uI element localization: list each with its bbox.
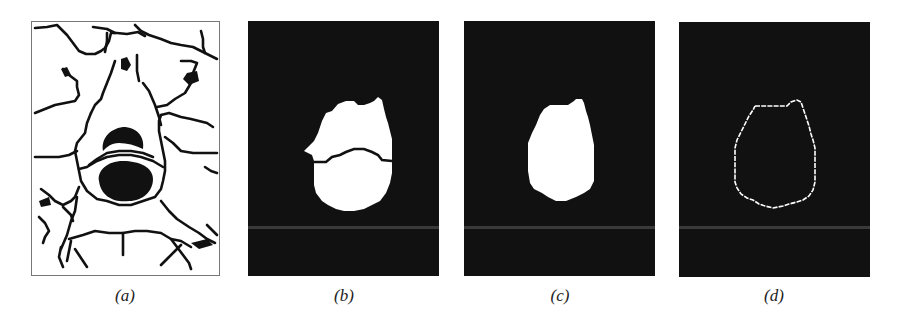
caption-d: (d) [734,286,814,306]
panel-c-filled-mask [464,21,655,276]
caption-c: (c) [520,286,600,306]
caption-a: (a) [85,286,165,306]
binary-mask-with-boundary-image [248,21,439,276]
panel-b-merged-mask [248,21,439,276]
panel-d-contour [679,22,870,277]
segmentation-lines-image [31,21,220,276]
region-contour-image [679,22,870,277]
caption-b: (b) [304,286,384,306]
panel-a-segmentation-map [31,21,220,276]
filled-binary-mask-image [464,21,655,276]
